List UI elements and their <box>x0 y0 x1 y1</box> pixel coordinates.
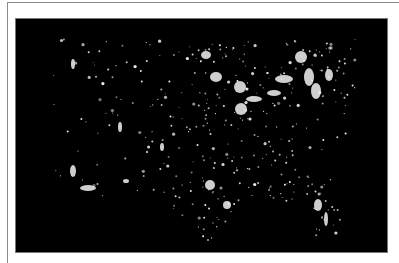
city-light-dot <box>235 75 236 76</box>
city-light-dot <box>230 124 232 126</box>
city-light-dot <box>316 50 317 51</box>
city-light-dot <box>285 162 287 164</box>
city-light-dot <box>279 154 281 156</box>
city-light-dot <box>95 76 97 78</box>
city-light-dot <box>186 126 188 128</box>
city-light-dot <box>238 199 240 201</box>
city-light-dot <box>254 44 257 47</box>
city-light-dot <box>178 197 180 199</box>
city-light-dot <box>321 70 323 72</box>
city-light-dot <box>67 131 69 133</box>
city-light-dot <box>122 45 124 47</box>
city-light-dot <box>222 57 223 58</box>
city-light-dot <box>221 163 224 166</box>
city-light-dot <box>296 123 297 124</box>
city-light-dot <box>292 138 293 139</box>
city-light-dot <box>329 43 332 46</box>
city-light-dot <box>248 117 251 120</box>
city-light-dot <box>216 105 217 106</box>
city-light-dot <box>271 164 272 165</box>
city-light-dot <box>272 103 273 104</box>
city-light-dot <box>230 211 231 212</box>
city-light-dot <box>152 131 153 132</box>
city-light-dot <box>195 126 197 128</box>
metro-area-light <box>295 51 307 63</box>
city-light-dot <box>268 189 270 191</box>
city-light-dot <box>306 128 307 129</box>
city-light-dot <box>219 44 221 46</box>
city-light-dot <box>202 177 203 178</box>
city-light-dot <box>289 61 292 64</box>
city-light-dot <box>186 57 189 60</box>
city-light-dot <box>352 84 354 86</box>
city-light-dot <box>225 153 228 156</box>
city-light-dot <box>248 187 249 188</box>
city-light-dot <box>265 66 266 67</box>
city-light-dot <box>282 197 283 198</box>
city-light-dot <box>298 176 300 178</box>
city-light-dot <box>302 63 304 65</box>
city-light-dot <box>274 104 276 106</box>
city-light-dot <box>98 50 100 52</box>
city-lights-layer <box>16 19 389 254</box>
city-light-dot <box>88 76 91 79</box>
city-light-dot <box>274 160 276 162</box>
city-light-dot <box>164 192 165 193</box>
city-light-dot <box>292 154 294 156</box>
city-light-dot <box>233 172 235 174</box>
city-light-dot <box>204 204 206 206</box>
city-light-dot <box>85 121 86 122</box>
city-light-dot <box>147 145 150 148</box>
city-light-dot <box>208 48 210 50</box>
city-light-dot <box>162 139 164 141</box>
city-light-dot <box>355 39 356 40</box>
city-light-dot <box>317 119 319 121</box>
city-light-dot <box>212 147 215 150</box>
city-light-dot <box>281 67 282 68</box>
city-light-dot <box>190 182 191 183</box>
city-light-dot <box>266 154 267 155</box>
city-light-dot <box>210 157 211 158</box>
city-light-dot <box>160 89 162 91</box>
city-light-dot <box>216 226 217 227</box>
city-light-dot <box>202 155 204 157</box>
metro-area-light <box>275 75 293 83</box>
city-light-dot <box>108 124 110 126</box>
city-light-dot <box>145 137 146 138</box>
city-light-dot <box>270 186 272 188</box>
metro-area-light <box>210 72 222 82</box>
city-light-dot <box>266 113 267 114</box>
city-light-dot <box>97 133 98 134</box>
city-light-dot <box>178 51 179 52</box>
city-light-dot <box>267 72 269 74</box>
city-light-dot <box>280 73 282 75</box>
city-light-dot <box>213 61 215 63</box>
city-light-dot <box>241 140 243 142</box>
metro-area-light <box>223 201 231 209</box>
city-light-dot <box>345 133 347 135</box>
city-light-dot <box>192 84 193 85</box>
city-light-dot <box>277 102 280 105</box>
city-light-dot <box>126 61 128 63</box>
city-light-dot <box>146 60 148 62</box>
city-light-dot <box>238 128 239 129</box>
city-light-dot <box>337 209 339 211</box>
city-light-dot <box>257 136 258 137</box>
city-light-dot <box>232 47 234 49</box>
city-light-dot <box>289 181 291 183</box>
city-light-dot <box>153 189 155 191</box>
city-light-dot <box>204 93 206 95</box>
city-light-dot <box>53 104 54 105</box>
city-light-dot <box>283 97 286 100</box>
city-light-dot <box>333 89 335 91</box>
city-light-dot <box>268 141 270 143</box>
city-light-dot <box>188 131 189 132</box>
city-light-dot <box>82 179 83 180</box>
city-light-dot <box>247 118 248 119</box>
city-light-dot <box>232 49 233 50</box>
city-light-dot <box>137 190 138 191</box>
city-light-dot <box>216 94 218 96</box>
city-light-dot <box>264 142 267 145</box>
city-light-dot <box>319 229 320 230</box>
city-light-dot <box>239 182 241 184</box>
